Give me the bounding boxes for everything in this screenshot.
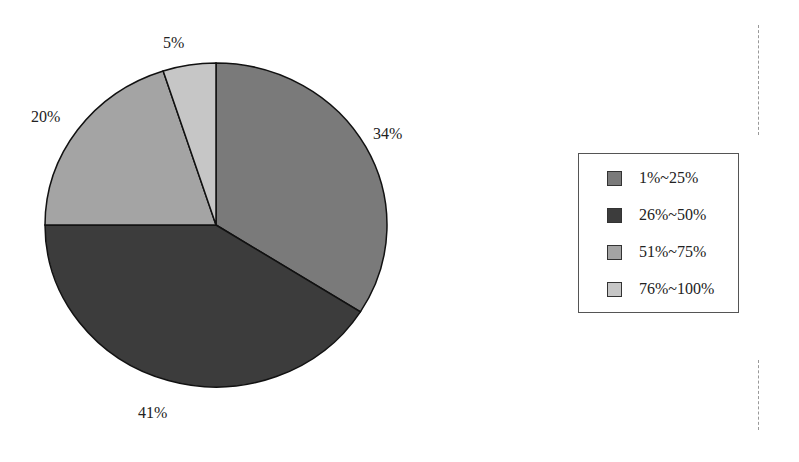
slice-label-26-50: 41% <box>138 404 167 422</box>
legend-swatch-26-50 <box>607 208 622 223</box>
legend-swatch-1-25 <box>607 171 622 186</box>
slice-label-1-25: 34% <box>373 125 402 143</box>
legend-item-1-25: 1%~25% <box>607 168 698 188</box>
legend-label: 1%~25% <box>639 169 698 187</box>
page-edge-divider <box>758 360 759 430</box>
slice-label-51-75: 20% <box>31 108 60 126</box>
legend-item-51-75: 51%~75% <box>607 242 706 262</box>
page-edge-divider <box>758 25 759 135</box>
legend-label: 51%~75% <box>639 243 706 261</box>
legend-item-76-100: 76%~100% <box>607 279 714 299</box>
slice-label-76-100: 5% <box>163 34 184 52</box>
legend-swatch-76-100 <box>607 282 622 297</box>
legend-label: 26%~50% <box>639 206 706 224</box>
legend-item-26-50: 26%~50% <box>607 205 706 225</box>
chart-legend: 1%~25% 26%~50% 51%~75% 76%~100% <box>578 153 739 313</box>
legend-label: 76%~100% <box>639 280 714 298</box>
legend-swatch-51-75 <box>607 245 622 260</box>
